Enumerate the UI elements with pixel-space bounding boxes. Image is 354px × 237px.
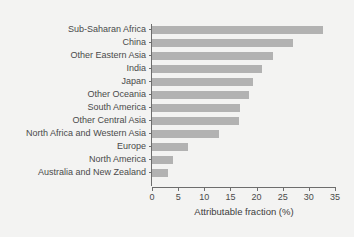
bar — [152, 104, 240, 112]
bar-row: South America — [152, 102, 335, 115]
category-label: China — [122, 36, 146, 48]
x-axis-tick-label: 5 — [176, 192, 181, 202]
category-label: Other Central Asia — [72, 114, 146, 126]
bar-row: North America — [152, 154, 335, 167]
bar-row: Sub-Saharan Africa — [152, 24, 335, 37]
bar — [152, 143, 188, 151]
bar-row: North Africa and Western Asia — [152, 128, 335, 141]
bar-row: Japan — [152, 76, 335, 89]
bar — [152, 156, 173, 164]
x-axis-tick-label: 20 — [252, 192, 262, 202]
x-axis-tick — [309, 188, 310, 191]
x-axis-tick — [283, 188, 284, 191]
chart-figure: Sub-Saharan AfricaChinaOther Eastern Asi… — [0, 0, 354, 237]
bar — [152, 91, 249, 99]
x-axis-tick — [204, 188, 205, 191]
x-axis-tick-label: 25 — [278, 192, 288, 202]
x-axis-tick — [178, 188, 179, 191]
category-label: Australia and New Zealand — [38, 166, 146, 178]
category-label: South America — [87, 101, 146, 113]
x-axis-tick — [152, 188, 153, 191]
bar — [152, 130, 219, 138]
x-axis-title: Attributable fraction (%) — [152, 206, 336, 217]
x-axis-tick — [335, 188, 336, 191]
bar-row: China — [152, 37, 335, 50]
bar — [152, 169, 168, 177]
x-axis-tick — [230, 188, 231, 191]
x-axis-tick-label: 15 — [225, 192, 235, 202]
bar — [152, 117, 239, 125]
bar — [152, 26, 323, 34]
category-label: Sub-Saharan Africa — [68, 23, 146, 35]
bar-row: Australia and New Zealand — [152, 167, 335, 180]
bar — [152, 39, 293, 47]
bar — [152, 65, 262, 73]
x-axis-tick-label: 30 — [304, 192, 314, 202]
category-label: India — [126, 62, 146, 74]
bar-row: Other Oceania — [152, 89, 335, 102]
category-label: North Africa and Western Asia — [26, 127, 146, 139]
x-axis-tick-label: 35 — [330, 192, 340, 202]
category-label: Other Oceania — [87, 88, 146, 100]
x-axis-tick — [257, 188, 258, 191]
bar-row: India — [152, 63, 335, 76]
plot-area: Sub-Saharan AfricaChinaOther Eastern Asi… — [152, 24, 335, 186]
category-label: Other Eastern Asia — [70, 49, 146, 61]
bar — [152, 78, 253, 86]
bar-row: Other Central Asia — [152, 115, 335, 128]
x-axis-tick-label: 10 — [199, 192, 209, 202]
category-label: Japan — [121, 75, 146, 87]
bar — [152, 52, 273, 60]
category-label: North America — [89, 153, 146, 165]
bar-row: Europe — [152, 141, 335, 154]
x-axis-tick-label: 0 — [149, 192, 154, 202]
bar-rows: Sub-Saharan AfricaChinaOther Eastern Asi… — [152, 24, 335, 186]
category-label: Europe — [117, 140, 146, 152]
bar-row: Other Eastern Asia — [152, 50, 335, 63]
